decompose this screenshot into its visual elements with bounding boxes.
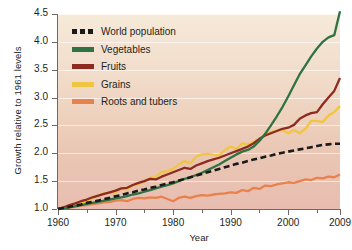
legend-swatch-icon (72, 99, 94, 104)
legend-item[interactable]: Vegetables (72, 41, 177, 59)
chart-figure: Growth relative to 1961 levels 1.01.52.0… (0, 0, 352, 250)
x-tick-label: 1980 (143, 217, 203, 228)
x-tick-label: 2009 (310, 217, 352, 228)
y-tick-mark (52, 42, 57, 43)
legend-label: World population (101, 26, 176, 37)
x-tick-mark (231, 210, 232, 215)
x-tick-mark (58, 210, 59, 215)
y-tick-mark (52, 14, 57, 15)
legend-swatch-icon (72, 64, 94, 69)
x-tick-mark (288, 210, 289, 215)
y-tick-label: 4.0 (8, 35, 48, 46)
legend-item[interactable]: Grains (72, 76, 177, 94)
y-tick-label: 4.5 (8, 7, 48, 18)
x-axis-title: Year (58, 232, 340, 243)
x-tick-mark-minor (144, 210, 145, 213)
x-axis-line (58, 209, 341, 210)
x-tick-mark-minor (317, 210, 318, 213)
legend-label: Roots and tubers (101, 96, 177, 107)
series-line (58, 144, 340, 209)
y-tick-mark (52, 209, 57, 210)
x-tick-mark (173, 210, 174, 215)
series-line (58, 174, 340, 209)
chart-legend: World populationVegetablesFruitsGrainsRo… (72, 23, 177, 111)
legend-label: Fruits (101, 61, 126, 72)
legend-swatch-icon (72, 29, 94, 34)
y-tick-mark (52, 70, 57, 71)
x-tick-label: 1990 (201, 217, 261, 228)
x-tick-mark-minor (87, 210, 88, 213)
x-tick-mark-minor (259, 210, 260, 213)
y-tick-mark (52, 98, 57, 99)
x-tick-label: 1960 (28, 217, 88, 228)
x-tick-mark (116, 210, 117, 215)
x-tick-mark (340, 210, 341, 215)
legend-label: Vegetables (101, 44, 151, 55)
y-tick-mark (52, 153, 57, 154)
y-tick-label: 1.5 (8, 174, 48, 185)
y-tick-label: 1.0 (8, 202, 48, 213)
y-tick-label: 3.5 (8, 63, 48, 74)
y-tick-label: 2.0 (8, 146, 48, 157)
legend-item[interactable]: Fruits (72, 58, 177, 76)
y-tick-mark (52, 181, 57, 182)
legend-label: Grains (101, 79, 130, 90)
y-tick-label: 2.5 (8, 118, 48, 129)
y-tick-mark (52, 125, 57, 126)
legend-swatch-icon (72, 82, 94, 87)
legend-item[interactable]: World population (72, 23, 177, 41)
legend-swatch-icon (72, 47, 94, 52)
y-tick-label: 3.0 (8, 91, 48, 102)
x-tick-label: 1970 (86, 217, 146, 228)
legend-item[interactable]: Roots and tubers (72, 93, 177, 111)
x-tick-mark-minor (202, 210, 203, 213)
